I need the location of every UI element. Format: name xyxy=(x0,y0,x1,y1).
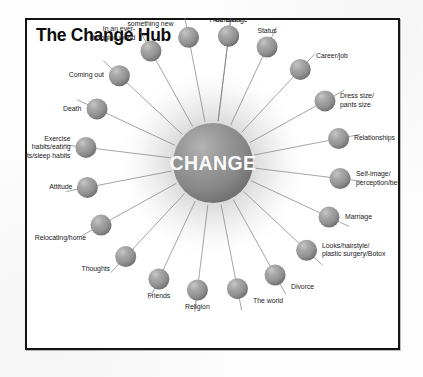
hub-node-label: Thoughts xyxy=(82,265,111,274)
hub-node-label: I AM change xyxy=(50,18,400,24)
hub-node[interactable] xyxy=(77,177,98,198)
hub-node[interactable] xyxy=(265,264,286,285)
hub-wheel-svg: CHANGE xyxy=(25,18,400,350)
hub-node-label: Dress size/ pants size xyxy=(340,92,374,109)
hub-node[interactable] xyxy=(91,215,112,236)
hub-node-label: Death xyxy=(63,105,81,114)
hub-node-label: Self-image/ perception/beliefs xyxy=(356,170,400,187)
hub-node[interactable] xyxy=(140,41,161,62)
hub-node[interactable] xyxy=(328,128,349,149)
hub-node-label: Career/job xyxy=(316,52,348,61)
hub-node[interactable] xyxy=(319,207,340,228)
change-hub-diagram: CHANGE BehaviorStatusCareer/jobDress siz… xyxy=(25,18,400,350)
hub-node-label: Relationships xyxy=(354,134,395,143)
hub-node-label: Marriage xyxy=(345,213,372,222)
hub-node[interactable] xyxy=(290,59,311,80)
hub-node[interactable] xyxy=(296,240,317,261)
hub-node[interactable] xyxy=(257,36,278,57)
hub-node[interactable] xyxy=(314,90,335,111)
hub-node[interactable] xyxy=(86,98,107,119)
hub-node[interactable] xyxy=(109,65,130,86)
hub-node-label: Friends xyxy=(25,292,337,301)
hub-node-label: Relocating/home xyxy=(34,234,85,243)
hub-node-label: Exercise habits/eating habits/sleep habi… xyxy=(25,135,70,161)
hub-node-label: Religion xyxy=(25,303,376,312)
hub-node[interactable] xyxy=(115,246,136,267)
hub-node[interactable] xyxy=(148,269,169,290)
hub-node-label: Looks/hairstyle/ plastic surgery/Botox xyxy=(322,242,385,259)
hub-node[interactable] xyxy=(75,137,96,158)
hub-node-label: Attitude xyxy=(49,183,72,192)
center-hub-label: CHANGE xyxy=(170,152,257,174)
hub-node[interactable] xyxy=(330,168,351,189)
hub-node-label: Coming out xyxy=(69,71,104,80)
